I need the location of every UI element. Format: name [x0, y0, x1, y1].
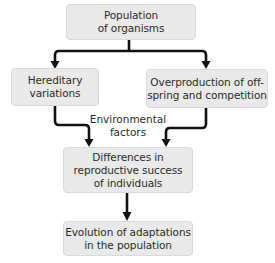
edge-population-overproduction — [129, 51, 206, 62]
node-hereditary-text: Hereditary variations — [28, 74, 83, 100]
arrowhead-icon — [85, 139, 94, 147]
arrowhead-icon — [202, 61, 211, 69]
node-hereditary-variations: Hereditary variations — [11, 68, 99, 106]
arrowhead-icon — [123, 212, 132, 221]
edge-population-hereditary — [55, 51, 129, 62]
edge-overproduction-differences — [166, 108, 206, 140]
node-differences: Differences in reproductive success of i… — [63, 147, 193, 193]
edge-hereditary-differences — [55, 106, 89, 140]
node-population-text: Population of organisms — [98, 9, 165, 35]
node-evolution: Evolution of adaptations in the populati… — [63, 221, 193, 256]
node-overproduction-text: Overproduction of off- spring and compet… — [147, 76, 267, 102]
node-overproduction: Overproduction of off- spring and compet… — [146, 69, 268, 108]
node-evolution-text: Evolution of adaptations in the populati… — [65, 226, 191, 252]
arrowhead-icon — [162, 139, 171, 147]
label-environmental-factors: Environmental factors — [88, 113, 168, 139]
node-population: Population of organisms — [66, 4, 196, 40]
node-differences-text: Differences in reproductive success of i… — [74, 151, 183, 190]
